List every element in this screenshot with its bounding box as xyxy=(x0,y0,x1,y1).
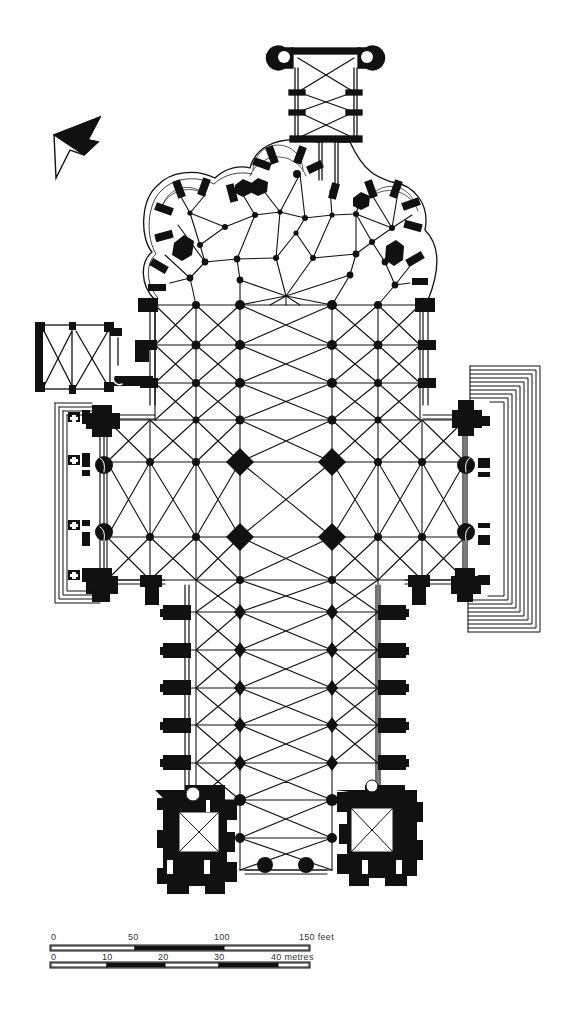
scale-feet-tick-50: 50 xyxy=(128,932,139,942)
scale-metres-tick-20: 20 xyxy=(158,952,169,962)
scale-metres-tick-40: 40 metres xyxy=(271,952,314,962)
scale-bar-metres xyxy=(50,962,310,968)
vault-ribs xyxy=(107,305,465,870)
scale-feet-tick-150: 150 feet xyxy=(299,932,334,942)
west-towers xyxy=(155,780,423,894)
cathedral-floor-plan xyxy=(0,0,567,1031)
scale-bar-feet xyxy=(50,945,310,951)
axial-chapel xyxy=(266,46,384,185)
scale-metres-tick-10: 10 xyxy=(102,952,113,962)
scale-feet-tick-100: 100 xyxy=(214,932,230,942)
piers xyxy=(86,298,482,843)
scale-metres-tick-30: 30 xyxy=(214,952,225,962)
sacristy xyxy=(35,322,153,394)
scale-feet-tick-0: 0 xyxy=(51,932,56,942)
scale-metres-tick-0: 0 xyxy=(51,952,56,962)
north-arrow-icon xyxy=(54,117,100,178)
chevet xyxy=(143,140,436,305)
